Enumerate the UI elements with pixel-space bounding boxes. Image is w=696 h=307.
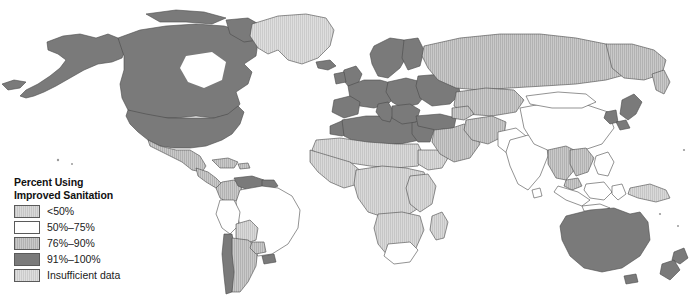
legend-title-line2: Improved Sanitation — [14, 189, 132, 202]
region-pacific-island — [57, 159, 59, 161]
legend-swatch-under-50 — [14, 205, 40, 218]
legend-swatch-91-100 — [14, 253, 40, 266]
legend-item-insufficient-data: Insufficient data — [14, 267, 132, 283]
legend-items: <50% 50%–75% 76%–90% 91%–100% Insufficie… — [14, 203, 132, 283]
legend-label-76-90: 76%–90% — [47, 237, 95, 250]
legend-title-line1: Percent Using — [14, 176, 132, 189]
region-pacific-island — [659, 213, 661, 215]
legend-swatch-insufficient-data — [14, 269, 40, 282]
region-uruguay — [262, 254, 276, 264]
legend-swatch-76-90 — [14, 237, 40, 250]
map-legend: Percent Using Improved Sanitation <50% 5… — [14, 176, 132, 283]
legend-label-insufficient-data: Insufficient data — [47, 269, 120, 282]
legend-label-91-100: 91%–100% — [47, 253, 101, 266]
region-pacific-island — [677, 225, 679, 227]
legend-label-50-75: 50%–75% — [47, 221, 95, 234]
legend-item-50-75: 50%–75% — [14, 219, 132, 235]
region-ireland — [334, 72, 346, 84]
region-pacific-island — [683, 149, 685, 151]
legend-item-76-90: 76%–90% — [14, 235, 132, 251]
legend-item-under-50: <50% — [14, 203, 132, 219]
legend-swatch-50-75 — [14, 221, 40, 234]
region-sri-lanka — [532, 188, 542, 198]
legend-label-under-50: <50% — [47, 205, 74, 218]
region-tasmania — [624, 274, 638, 284]
region-pacific-island — [71, 163, 73, 165]
legend-item-91-100: 91%–100% — [14, 251, 132, 267]
world-map-figure: Percent Using Improved Sanitation <50% 5… — [0, 0, 696, 307]
region-hispaniola — [238, 163, 250, 169]
